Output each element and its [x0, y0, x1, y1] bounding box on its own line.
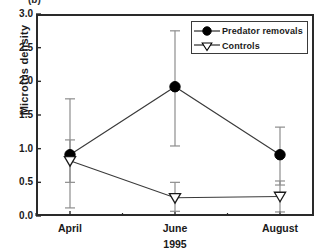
- y-tick-6: 3.0: [3, 8, 33, 19]
- y-tick-5: 2.5: [3, 42, 33, 53]
- y-tick-1: 0.5: [3, 176, 33, 187]
- x-tick-april: April: [35, 222, 105, 234]
- y-axis-tick-labels: 0.0 0.5 1.0 1.5 2.0 2.5 3.0: [0, 0, 33, 252]
- legend-entry-predator-removals: Predator removals: [192, 23, 307, 38]
- filled-circle-icon: [192, 24, 222, 38]
- y-tick-3: 1.5: [3, 109, 33, 120]
- x-tick-june: June: [140, 222, 210, 234]
- legend-label-predator-removals: Predator removals: [222, 26, 303, 36]
- y-tick-4: 2.0: [3, 75, 33, 86]
- legend-label-controls: Controls: [222, 41, 260, 51]
- x-tick-august: August: [245, 222, 315, 234]
- y-tick-2: 1.0: [3, 143, 33, 154]
- x-axis-title: 1995: [140, 238, 210, 250]
- legend-entry-controls: Controls: [192, 38, 307, 53]
- y-tick-0: 0.0: [3, 210, 33, 221]
- open-triangle-down-icon: [192, 39, 222, 53]
- figure-panel-b: (b) Microtus density 0.0 0.5 1.0 1.5 2.0…: [0, 0, 318, 252]
- chart-legend: Predator removals Controls: [191, 21, 308, 54]
